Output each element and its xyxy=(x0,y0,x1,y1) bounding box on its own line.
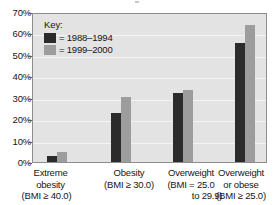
legend-item-1999-2000: = 1999–2000 xyxy=(44,44,113,55)
legend-label: = 1988–1994 xyxy=(59,32,113,43)
x-axis-category-label-overweight-or-obese: Overweight or obese (BMI ≥ 25.0) xyxy=(208,167,274,202)
legend-item-1988-1994: = 1988–1994 xyxy=(44,32,113,43)
legend-label: = 1999–2000 xyxy=(59,44,113,55)
legend-swatch-icon xyxy=(44,45,56,55)
bar-overweight-1999-2000 xyxy=(183,90,193,162)
bar-overweight-1988-1994 xyxy=(173,93,183,162)
y-axis-tick-label: 70% xyxy=(0,8,31,18)
label-line: obesity xyxy=(8,179,93,191)
bar-obesity-1999-2000 xyxy=(121,97,131,162)
y-axis-tick-label: 30% xyxy=(0,94,31,104)
bar-obesity-1988-1994 xyxy=(111,113,121,162)
gridline xyxy=(33,121,266,122)
gridline xyxy=(33,78,266,79)
label-line: (BMI ≥ 25.0) xyxy=(208,190,274,202)
label-line: (BMI ≥ 40.0) xyxy=(0,190,93,202)
gridline xyxy=(33,57,266,58)
bar-chart: 70% 60% 50% 40% 30% 20% 10% 0% xyxy=(0,0,274,205)
legend: Key: = 1988–1994 = 1999–2000 xyxy=(44,19,113,55)
y-axis-tick-label: 50% xyxy=(0,51,31,61)
bar-extreme-obesity-1999-2000 xyxy=(57,152,67,162)
legend-title: Key: xyxy=(44,19,113,30)
y-axis-tick-mark xyxy=(28,163,32,164)
label-line: or obese xyxy=(208,179,274,191)
y-axis-tick-label: 10% xyxy=(0,137,31,147)
scan-artifact xyxy=(135,1,139,3)
bar-extreme-obesity-1988-1994 xyxy=(47,156,57,162)
legend-swatch-icon xyxy=(44,33,56,43)
y-axis-tick-label: 60% xyxy=(0,29,31,39)
y-axis-tick-label: 40% xyxy=(0,72,31,82)
label-line: Extreme xyxy=(8,167,93,179)
bar-overweight-or-obese-1999-2000 xyxy=(245,25,255,162)
gridline xyxy=(33,143,266,144)
bar-overweight-or-obese-1988-1994 xyxy=(235,43,245,162)
gridline xyxy=(33,100,266,101)
label-line: Overweight xyxy=(208,167,274,179)
plot-area: Key: = 1988–1994 = 1999–2000 xyxy=(32,13,267,163)
x-axis-category-label-extreme-obesity: Extreme obesity (BMI ≥ 40.0) xyxy=(0,167,93,202)
y-axis-tick-label: 20% xyxy=(0,115,31,125)
